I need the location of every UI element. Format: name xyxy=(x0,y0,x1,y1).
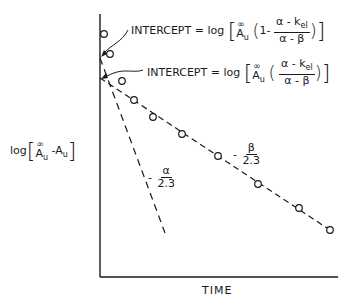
data-point xyxy=(150,114,157,121)
a-infinity-u: ∞Au xyxy=(252,62,265,84)
data-point xyxy=(296,205,303,212)
intercept1-fraction: α - kelα - β xyxy=(274,16,310,45)
minus-a: -A xyxy=(51,144,62,157)
slope-beta-label: - β2.3 xyxy=(233,142,262,167)
paren-close: ) xyxy=(310,20,317,41)
data-point xyxy=(101,31,108,38)
y-axis-label: log[∞Au -Au] xyxy=(10,140,76,162)
log-text: log xyxy=(10,144,27,157)
data-point xyxy=(179,131,186,138)
bracket-open: [ xyxy=(228,18,237,43)
data-point xyxy=(131,97,138,104)
a-infinity-u: ∞Au xyxy=(35,140,48,162)
data-point xyxy=(255,181,262,188)
bracket-close: ] xyxy=(317,18,326,43)
intercept1-label: INTERCEPT = log xyxy=(131,24,224,37)
bracket-open: [ xyxy=(27,138,36,163)
beta-fraction: β2.3 xyxy=(240,142,262,167)
x-axis-label: TIME xyxy=(202,284,232,297)
data-point xyxy=(327,227,334,234)
one-minus: 1- xyxy=(259,24,270,37)
data-point xyxy=(107,51,114,58)
intercept2-label: INTERCEPT = log xyxy=(147,66,240,79)
intercept2-annotation: INTERCEPT = log [∞Au ( α - kelα - β)] xyxy=(147,58,330,87)
data-point xyxy=(215,153,222,160)
alpha-fraction: α2.3 xyxy=(155,165,177,190)
paren-close: ) xyxy=(315,62,322,83)
a-infinity-u: ∞Au xyxy=(236,20,249,42)
bracket-close: ] xyxy=(322,60,331,85)
slope-alpha-label: - α2.3 xyxy=(148,165,177,190)
intercept1-annotation: INTERCEPT = log [∞Au (1- α - kelα - β)] xyxy=(131,16,325,45)
minus-sign: - xyxy=(148,171,152,184)
bracket-open: [ xyxy=(244,60,253,85)
data-point xyxy=(119,78,126,85)
intercept2-fraction: α - kelα - β xyxy=(279,58,315,87)
minus-sign: - xyxy=(233,148,237,161)
bracket-close: ] xyxy=(68,138,77,163)
intercept2-arrowhead xyxy=(101,73,108,79)
paren-open: ( xyxy=(268,62,275,83)
intercept2-leader xyxy=(104,70,143,78)
